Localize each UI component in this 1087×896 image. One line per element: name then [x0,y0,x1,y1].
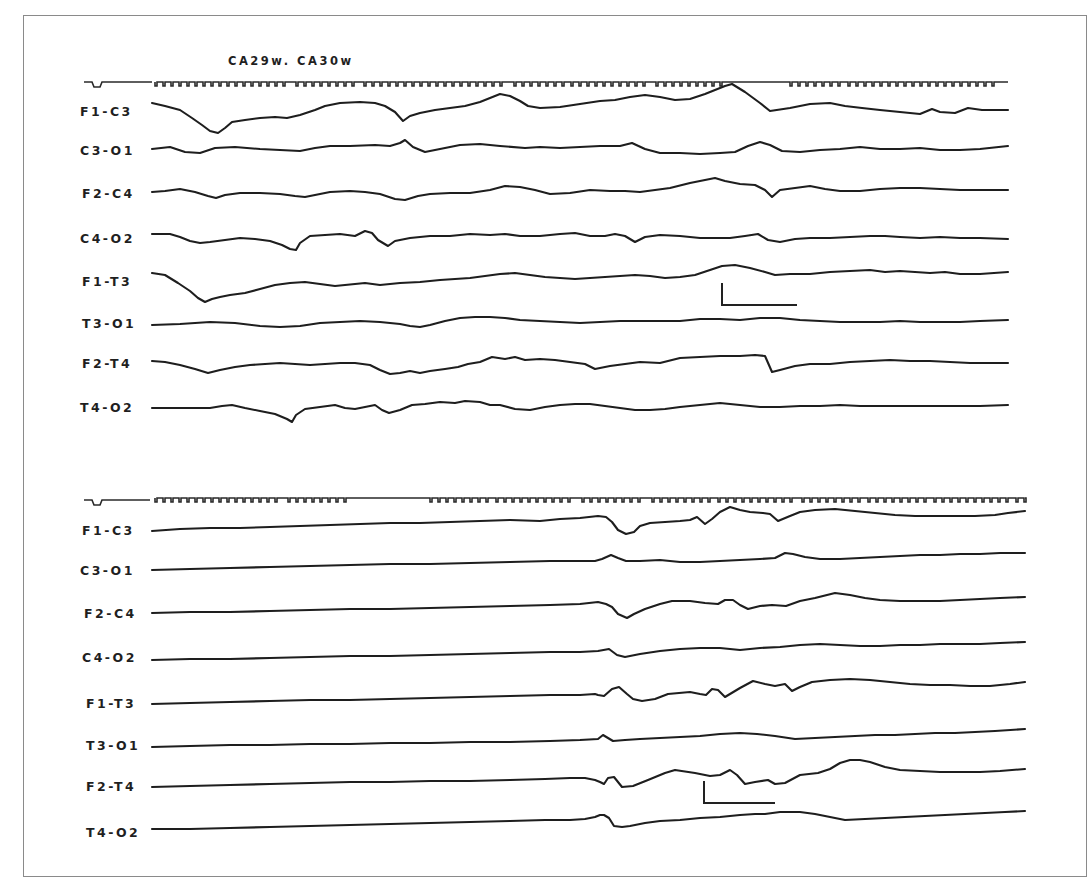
eeg-trace-f2-c4 [152,178,1008,200]
calibration-bar-bottom [704,781,775,803]
channel-label: F1-C3 [82,523,135,538]
eeg-trace-c3-o1 [152,140,1008,154]
eeg-trace-c4-o2 [152,642,1025,660]
eeg-trace-f1-c3 [152,507,1025,534]
channel-label: F1-T3 [82,274,132,289]
channel-label: C3-O1 [80,563,135,578]
channel-label: T4-O2 [86,825,140,840]
channel-label: F1-C3 [80,104,133,119]
eeg-trace-c3-o1 [152,553,1025,570]
eeg-trace-t4-o2 [152,811,1025,829]
eeg-trace-c4-o2 [152,231,1008,250]
channel-label: F2-T4 [82,356,132,371]
channel-label: T4-O2 [80,400,134,415]
channel-label: F1-T3 [86,696,136,711]
figure-title: CA29w. CA30w [228,54,354,68]
channel-label: T3-O1 [86,738,140,753]
time-marker-line-top [84,82,1008,87]
calibration-bar-top [722,283,797,305]
eeg-trace-t3-o1 [152,317,1008,327]
panel-bottom: F1-C3 C3-O1 F2-C4 C4-O2 F1-T3 T3-O1 F2-T… [80,498,1026,840]
panel-top: F1-C3 C3-O1 F2-C4 C4-O2 F1-T3 T3-O1 F2-T… [80,82,1008,422]
eeg-trace-t3-o1 [152,729,1025,747]
time-marker-line-bottom [84,498,1026,505]
channel-label: C4-O2 [82,650,137,665]
channel-label: T3-O1 [82,316,136,331]
eeg-trace-t4-o2 [152,401,1008,422]
channel-label: F2-C4 [82,186,135,201]
channel-label: F2-C4 [84,606,137,621]
channel-label: C4-O2 [80,231,135,246]
eeg-trace-f1-c3 [152,84,1008,133]
eeg-trace-f2-c4 [152,593,1025,618]
channel-label: C3-O1 [80,143,135,158]
eeg-trace-f1-t3 [152,679,1025,704]
eeg-trace-f2-t4 [152,760,1025,787]
eeg-trace-f2-t4 [152,355,1008,374]
eeg-trace-f1-t3 [152,265,1008,302]
channel-label: F2-T4 [86,779,136,794]
